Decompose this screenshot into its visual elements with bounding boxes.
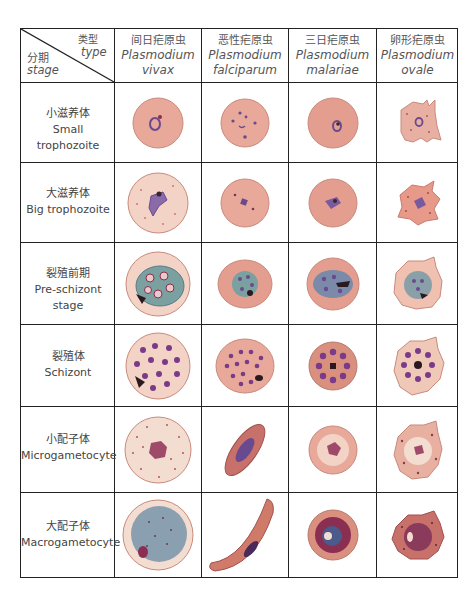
row-label-en: Pre-schizont stage — [21, 282, 115, 314]
cell-falciparum-microgametocyte — [202, 407, 288, 492]
row-label-cn: 小配子体 — [21, 432, 115, 448]
column-header-cn: 三日疟原虫 — [289, 33, 376, 48]
rbc-ring-form-icon — [303, 93, 363, 153]
cell-falciparum-schizont — [202, 325, 288, 406]
cell-ovale-microgametocyte — [377, 407, 458, 492]
cell-falciparum-macrogametocyte — [202, 493, 288, 577]
row-label-en: Macrogametocyte — [21, 535, 115, 551]
cell-falciparum-pre-schizont — [202, 243, 288, 324]
cell-malariae-small-trophozoite — [289, 83, 376, 162]
column-header-latin-genus: Plasmodium — [202, 48, 288, 63]
row-label-cn: 大配子体 — [21, 519, 115, 535]
column-header-latin-genus: Plasmodium — [377, 48, 458, 63]
column-header-cn: 间日疟原虫 — [115, 33, 201, 48]
row-label-cn: 大滋养体 — [21, 186, 115, 202]
crescent-gametocyte-icon — [205, 493, 285, 577]
cell-vivax-schizont — [115, 325, 201, 406]
cell-malariae-macrogametocyte — [289, 493, 376, 577]
row-label-en: Microgametocyte — [21, 448, 115, 464]
rbc-macrogametocyte-icon — [304, 506, 362, 564]
corner-type-label-cn: 类型 — [78, 31, 98, 46]
column-header-latin-species: ovale — [377, 63, 458, 78]
column-header-falciparum: 恶性疟原虫 Plasmodium falciparum — [202, 33, 288, 78]
row-label-pre-schizont: 裂殖前期 Pre-schizont stage — [21, 266, 115, 314]
rbc-pre-schizont-icon — [302, 253, 364, 315]
column-header-malariae: 三日疟原虫 Plasmodium malariae — [289, 33, 376, 78]
row-label-macrogametocyte: 大配子体 Macrogametocyte — [21, 519, 115, 551]
rbc-ring-form-icon — [128, 93, 188, 153]
rbc-schizont-merozoites-icon — [123, 330, 193, 402]
row-label-cn: 裂殖前期 — [21, 266, 115, 282]
cell-malariae-schizont — [289, 325, 376, 406]
column-header-vivax: 间日疟原虫 Plasmodium vivax — [115, 33, 201, 78]
rbc-compact-trophozoite-icon — [215, 173, 275, 233]
cell-ovale-big-trophozoite — [377, 163, 458, 242]
column-header-latin-genus: Plasmodium — [289, 48, 376, 63]
rbc-fimbriated-trophozoite-icon — [390, 175, 446, 231]
cell-vivax-macrogametocyte — [115, 493, 201, 577]
column-header-cn: 恶性疟原虫 — [202, 33, 288, 48]
rbc-schizont-merozoites-icon — [213, 334, 277, 398]
rbc-macrogametocyte-icon — [119, 496, 197, 574]
rbc-pre-schizont-icon — [214, 253, 276, 315]
cell-malariae-big-trophozoite — [289, 163, 376, 242]
rbc-pre-schizont-icon — [122, 248, 194, 320]
cell-vivax-small-trophozoite — [115, 83, 201, 162]
cell-ovale-pre-schizont — [377, 243, 458, 324]
row-label-en: Small trophozoite — [21, 122, 115, 154]
rbc-rosette-schizont-icon — [305, 338, 361, 394]
rbc-macrogametocyte-icon — [388, 505, 448, 565]
rbc-microgametocyte-icon — [305, 422, 361, 478]
corner-type-label-en: type — [81, 45, 107, 59]
rbc-pre-schizont-icon — [388, 253, 448, 315]
rbc-microgametocyte-icon — [121, 413, 195, 487]
row-label-small-trophozoite: 小滋养体 Small trophozoite — [21, 106, 115, 154]
cell-ovale-small-trophozoite — [377, 83, 458, 162]
cell-falciparum-big-trophozoite — [202, 163, 288, 242]
row-label-cn: 小滋养体 — [21, 106, 115, 122]
rbc-amoeboid-trophozoite-icon — [123, 168, 193, 238]
rbc-microgametocyte-icon — [388, 415, 448, 485]
column-header-latin-species: falciparum — [202, 63, 288, 78]
cell-vivax-microgametocyte — [115, 407, 201, 492]
row-label-en: Schizont — [21, 365, 115, 381]
column-header-latin-species: malariae — [289, 63, 376, 78]
cell-vivax-pre-schizont — [115, 243, 201, 324]
rbc-band-trophozoite-icon — [303, 173, 363, 233]
row-label-microgametocyte: 小配子体 Microgametocyte — [21, 432, 115, 464]
rbc-fimbriated-ring-icon — [393, 96, 443, 150]
row-label-cn: 裂殖体 — [21, 349, 115, 365]
rbc-multiple-rings-icon — [215, 93, 275, 153]
row-label-big-trophozoite: 大滋养体 Big trophozoite — [21, 186, 115, 218]
column-header-ovale: 卵形疟原虫 Plasmodium ovale — [377, 33, 458, 78]
cell-malariae-pre-schizont — [289, 243, 376, 324]
column-header-latin-genus: Plasmodium — [115, 48, 201, 63]
parasite-stage-table: 类型 type 分期 stage 间日疟原虫 Plasmodium vivax … — [20, 28, 458, 578]
cell-malariae-microgametocyte — [289, 407, 376, 492]
cell-falciparum-small-trophozoite — [202, 83, 288, 162]
rbc-rosette-schizont-icon — [388, 333, 448, 399]
sausage-gametocyte-icon — [215, 415, 275, 485]
corner-stage-label-en: stage — [27, 63, 59, 77]
cell-ovale-schizont — [377, 325, 458, 406]
cell-vivax-big-trophozoite — [115, 163, 201, 242]
column-header-cn: 卵形疟原虫 — [377, 33, 458, 48]
column-header-latin-species: vivax — [115, 63, 201, 78]
row-label-schizont: 裂殖体 Schizont — [21, 349, 115, 381]
row-label-en: Big trophozoite — [21, 202, 115, 218]
cell-ovale-macrogametocyte — [377, 493, 458, 577]
